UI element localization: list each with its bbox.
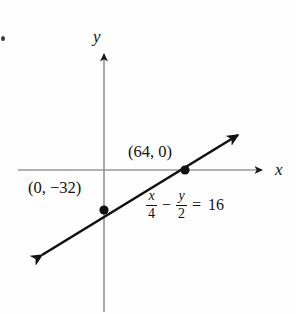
fraction-denominator-4: 4 xyxy=(146,205,157,222)
point-marker-x-intercept xyxy=(180,165,189,174)
point-marker-y-intercept xyxy=(99,205,108,214)
fraction-numerator-y: y xyxy=(176,189,186,205)
y-axis-label: y xyxy=(93,28,101,45)
equals-sign: = xyxy=(192,197,201,213)
line-graph-figure: y x (64, 0) (0, −32) x 4 − y 2 = 16 xyxy=(0,0,296,314)
fraction-y-over-2: y 2 xyxy=(176,189,187,221)
fraction-x-over-4: x 4 xyxy=(146,189,157,221)
fraction-denominator-2: 2 xyxy=(176,205,187,222)
point-label-x-intercept: (64, 0) xyxy=(128,144,172,161)
point-label-y-intercept: (0, −32) xyxy=(28,180,81,197)
equation-right-side: 16 xyxy=(208,197,224,213)
minus-operator: − xyxy=(162,197,171,213)
fraction-numerator-x: x xyxy=(146,189,156,205)
x-axis-label: x xyxy=(275,161,283,178)
line-equation: x 4 − y 2 = 16 xyxy=(145,189,224,221)
